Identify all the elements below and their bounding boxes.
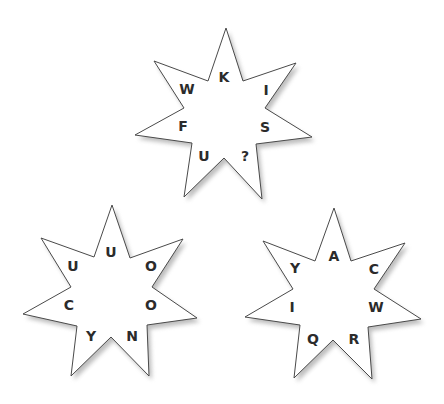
star-letter: W: [368, 299, 383, 315]
star-letter: Y: [85, 328, 97, 344]
seven-point-star-shape: [245, 208, 421, 379]
puzzle-canvas: KIS?UFWUOONYCUACWRQIY: [0, 0, 444, 404]
star-letter: U: [105, 244, 116, 260]
star-bottom-left: UOONYCU: [23, 205, 200, 380]
star-letter: R: [349, 331, 360, 347]
star-letter: I: [289, 299, 294, 315]
letter-star-puzzle: KIS?UFWUOONYCUACWRQIY: [0, 0, 444, 404]
seven-point-star-shape: [135, 28, 312, 199]
star-letter: F: [178, 118, 188, 134]
star-letter: C: [369, 261, 379, 277]
star-letter: C: [64, 297, 74, 313]
star-letter: U: [67, 258, 78, 274]
stars-layer: KIS?UFWUOONYCUACWRQIY: [23, 28, 424, 383]
star-letter: N: [126, 328, 138, 344]
missing-letter-question-mark: ?: [241, 148, 249, 164]
star-letter: K: [219, 69, 231, 85]
seven-point-star-shape: [23, 205, 197, 376]
star-letter: A: [329, 248, 340, 264]
star-letter: I: [263, 82, 268, 98]
star-letter: Q: [307, 331, 319, 347]
star-letter: W: [179, 81, 194, 97]
star-bottom-right: ACWRQIY: [245, 208, 424, 383]
star-letter: O: [145, 297, 157, 313]
star-letter: O: [145, 258, 157, 274]
star-letter: Y: [289, 260, 301, 276]
star-letter: U: [198, 148, 209, 164]
star-letter: S: [260, 119, 270, 135]
star-top: KIS?UFW: [135, 28, 315, 203]
